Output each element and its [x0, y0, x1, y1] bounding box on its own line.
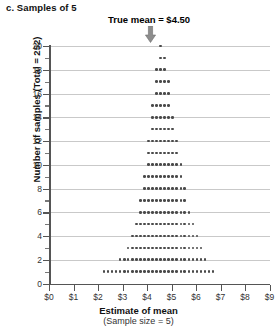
data-point-dot	[139, 247, 142, 250]
x-axis-tick	[147, 285, 148, 291]
data-point-dot	[151, 258, 154, 261]
data-point-dot	[151, 116, 154, 119]
data-point-dot	[163, 187, 166, 190]
data-point-dot	[147, 270, 150, 273]
data-point-dot	[159, 80, 162, 83]
data-point-dot	[192, 270, 195, 273]
x-axis-tick	[270, 285, 271, 291]
data-point-dot	[143, 187, 146, 190]
true-mean-annotation: True mean = $4.50	[108, 14, 190, 25]
data-point-dot	[175, 247, 178, 250]
data-point-dot	[151, 223, 154, 226]
x-axis-tick	[196, 285, 197, 291]
data-point-dot	[175, 175, 178, 178]
data-point-dot	[155, 187, 158, 190]
data-point-dot	[163, 270, 166, 273]
x-axis-tick	[172, 285, 173, 291]
data-point-dot	[147, 163, 150, 166]
x-axis-tick-label: $9	[258, 292, 278, 302]
data-point-dot	[143, 199, 146, 202]
y-axis-tick-label: 4	[2, 231, 42, 241]
data-point-dot	[159, 223, 162, 226]
data-point-dot	[163, 211, 166, 214]
y-axis-tick-label: 6	[2, 207, 42, 217]
data-point-dot	[135, 223, 138, 226]
data-point-dot	[159, 57, 162, 60]
data-point-dot	[155, 223, 158, 226]
data-point-dot	[139, 258, 142, 261]
y-axis-tick-label: 2	[2, 255, 42, 265]
data-point-dot	[135, 235, 138, 238]
data-point-dot	[155, 68, 158, 71]
data-point-dot	[163, 152, 166, 155]
data-point-dot	[127, 270, 130, 273]
y-axis-tick	[43, 117, 49, 118]
data-point-dot	[159, 68, 162, 71]
data-point-dot	[163, 175, 166, 178]
data-point-dot	[159, 152, 162, 155]
x-axis-line	[49, 284, 270, 286]
data-point-dot	[135, 247, 138, 250]
data-point-dot	[135, 258, 138, 261]
y-axis-tick	[43, 94, 49, 95]
data-point-dot	[183, 247, 186, 250]
down-arrow-icon	[145, 26, 156, 43]
data-point-dot	[167, 163, 170, 166]
data-point-dot	[143, 175, 146, 178]
data-point-dot	[159, 247, 162, 250]
data-point-dot	[167, 223, 170, 226]
data-point-dot	[183, 270, 186, 273]
x-axis-title: Estimate of mean	[0, 305, 277, 316]
data-point-dot	[167, 175, 170, 178]
data-point-dot	[163, 57, 166, 60]
y-axis-tick-label: 12	[2, 136, 42, 146]
data-point-dot	[147, 223, 150, 226]
data-point-dot	[167, 258, 170, 261]
data-point-dot	[127, 247, 130, 250]
data-point-dot	[188, 270, 191, 273]
data-point-dot	[159, 199, 162, 202]
data-point-dot	[163, 199, 166, 202]
data-point-dot	[159, 104, 162, 107]
x-axis-tick-label: $0	[37, 292, 61, 302]
data-point-dot	[175, 211, 178, 214]
data-point-dot	[175, 258, 178, 261]
data-point-dot	[147, 211, 150, 214]
data-point-dot	[175, 270, 178, 273]
data-point-dot	[204, 270, 207, 273]
data-point-dot	[155, 211, 158, 214]
data-point-dot	[180, 175, 183, 178]
data-point-dot	[143, 247, 146, 250]
y-axis-tick	[43, 212, 49, 213]
data-point-dot	[167, 152, 170, 155]
y-axis-line	[49, 45, 51, 285]
x-axis-tick-label: $2	[86, 292, 110, 302]
y-axis-tick	[43, 46, 49, 47]
data-point-dot	[163, 104, 166, 107]
data-point-dot	[143, 270, 146, 273]
x-axis-subtitle: (Sample size = 5)	[0, 316, 277, 326]
data-point-dot	[188, 211, 191, 214]
data-point-dot	[171, 247, 174, 250]
data-point-dot	[107, 270, 110, 273]
x-axis-tick-label: $5	[160, 292, 184, 302]
x-axis-tick-label: $1	[62, 292, 86, 302]
x-axis-tick-label: $6	[184, 292, 208, 302]
data-point-dot	[139, 211, 142, 214]
data-point-dot	[163, 163, 166, 166]
data-point-dot	[163, 258, 166, 261]
y-axis-minor-tick	[45, 248, 49, 249]
x-axis-tick	[49, 285, 50, 291]
data-point-dot	[155, 163, 158, 166]
data-point-dot	[208, 270, 211, 273]
data-point-dot	[159, 128, 162, 131]
data-point-dot	[180, 270, 183, 273]
data-point-dot	[163, 80, 166, 83]
y-axis-minor-tick	[45, 272, 49, 273]
data-point-dot	[155, 128, 158, 131]
data-point-dot	[171, 116, 174, 119]
data-point-dot	[103, 270, 106, 273]
data-point-dot	[163, 223, 166, 226]
data-point-dot	[151, 175, 154, 178]
data-point-dot	[183, 211, 186, 214]
